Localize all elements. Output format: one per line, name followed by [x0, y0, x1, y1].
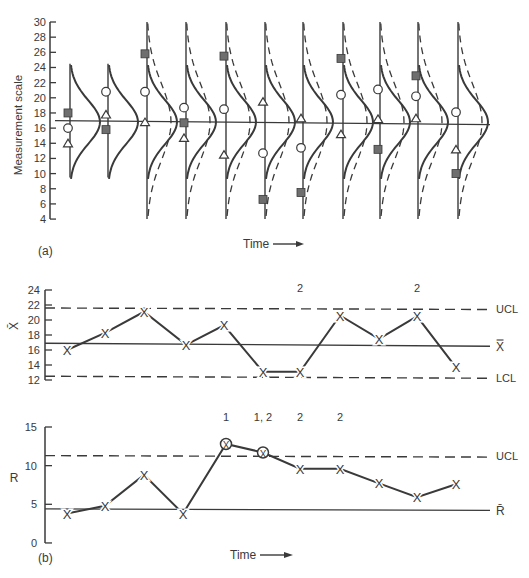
- range-point: X: [223, 440, 230, 451]
- triangle-marker: [102, 110, 111, 118]
- range-point: X: [101, 499, 110, 514]
- circle-marker: [220, 105, 229, 114]
- xbar-point: X: [413, 309, 422, 324]
- y-tick-label: 22: [28, 299, 40, 311]
- xbar-series-line: [67, 312, 456, 372]
- xbar-point: X: [452, 360, 461, 375]
- rule-annotation: 1, 2: [254, 411, 272, 423]
- process-distribution-curve: [419, 65, 448, 179]
- ucl-label: UCL: [496, 450, 518, 462]
- rule-annotation: 2: [414, 282, 420, 294]
- process-distribution-curve: [381, 65, 410, 179]
- range-point: X: [413, 490, 422, 505]
- xbar-point: X: [336, 309, 345, 324]
- xbar-chart: 12141618202224X̄UCLX̿LCLXXXXXXXXXXX22: [7, 282, 518, 386]
- subgroup: [337, 22, 374, 221]
- square-marker: [337, 54, 345, 62]
- triangle-marker: [64, 139, 73, 147]
- range-point: X: [260, 449, 267, 460]
- ucl-label: UCL: [496, 303, 518, 315]
- time-label-b: Time: [230, 548, 257, 562]
- subgroup: [220, 22, 257, 221]
- y-tick-label: 14: [34, 137, 46, 149]
- time-label-a: Time: [243, 237, 270, 251]
- circle-marker: [297, 144, 306, 153]
- y-tick-label: 20: [34, 92, 46, 104]
- widened-distribution-curve: [304, 24, 327, 221]
- time-arrow-b-icon: [260, 552, 293, 558]
- xbar-point: X: [220, 318, 229, 333]
- circle-marker: [180, 103, 189, 112]
- subgroup: [259, 22, 296, 221]
- square-marker: [374, 145, 382, 153]
- y-tick-label: 5: [31, 498, 37, 510]
- xbar-point: X: [375, 332, 384, 347]
- rule-annotation: 1: [223, 411, 229, 423]
- range-chart: 051015RUCLR̄XXXXXXXXXXX11, 222: [10, 411, 518, 549]
- triangle-marker: [374, 115, 383, 123]
- y-tick-label: 28: [34, 31, 46, 43]
- range-point: X: [140, 468, 149, 483]
- square-marker: [64, 109, 72, 117]
- panel-b-label: (b): [38, 551, 53, 565]
- square-marker: [297, 189, 305, 197]
- y-tick-label: 20: [28, 314, 40, 326]
- y-tick-label: 15: [25, 421, 37, 433]
- center-line: [45, 343, 490, 346]
- lcl-label: LCL: [496, 372, 516, 384]
- process-distribution-curve: [459, 65, 488, 179]
- range-point: X: [296, 462, 305, 477]
- control-chart-figure: 4681012141618202224262830 12141618202224…: [0, 0, 529, 578]
- square-marker: [141, 50, 149, 58]
- process-distribution-curve: [344, 65, 373, 179]
- y-tick-label: 24: [34, 61, 46, 73]
- xbarbar-label: X̿: [496, 339, 504, 354]
- time-arrow-a-icon: [273, 241, 304, 247]
- process-center-line: [55, 121, 490, 125]
- triangle-marker: [220, 151, 229, 159]
- square-marker: [220, 52, 228, 60]
- circle-marker: [102, 87, 111, 96]
- process-distribution-curve: [71, 65, 100, 179]
- subgroup: [412, 22, 449, 221]
- y-tick-label: 24: [28, 284, 40, 296]
- circle-marker: [64, 124, 73, 133]
- triangle-marker: [452, 145, 461, 153]
- circle-marker: [452, 108, 461, 117]
- y-tick-label: 8: [40, 183, 46, 195]
- y-tick-label: 10: [34, 168, 46, 180]
- y-axis-label: R: [10, 471, 19, 485]
- range-point: X: [375, 476, 384, 491]
- triangle-marker: [297, 114, 306, 122]
- range-point: X: [63, 507, 72, 522]
- rbar-label: R̄: [496, 504, 505, 518]
- y-tick-label: 0: [31, 537, 37, 549]
- process-distribution-curve: [304, 65, 333, 179]
- circle-marker: [412, 92, 421, 101]
- triangle-marker: [180, 134, 189, 142]
- xbar-point: X: [296, 365, 305, 380]
- y-tick-label: 12: [28, 374, 40, 386]
- measurement-scale-label: Measurement scale: [12, 75, 24, 175]
- circle-marker: [374, 85, 383, 94]
- square-marker: [102, 126, 110, 134]
- triangle-marker: [412, 114, 421, 122]
- subgroup: [374, 22, 411, 221]
- y-tick-label: 12: [34, 152, 46, 164]
- range-point: X: [336, 462, 345, 477]
- panel-a-label: (a): [38, 244, 53, 258]
- xbar-point: X: [259, 365, 268, 380]
- y-axis-label: X̄: [7, 322, 21, 330]
- rule-annotation: 2: [337, 411, 343, 423]
- triangle-marker: [259, 98, 268, 106]
- distribution-panel: 4681012141618202224262830: [34, 16, 490, 225]
- triangle-marker: [337, 130, 346, 138]
- range-point: X: [179, 507, 188, 522]
- lcl-line: [45, 376, 490, 378]
- xbar-point: X: [63, 343, 72, 358]
- center-line: [45, 509, 490, 511]
- square-marker: [259, 195, 267, 203]
- circle-marker: [259, 149, 268, 158]
- square-marker: [412, 72, 420, 80]
- y-tick-label: 6: [40, 198, 46, 210]
